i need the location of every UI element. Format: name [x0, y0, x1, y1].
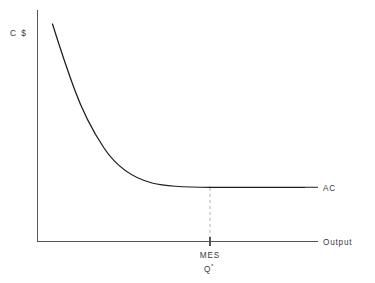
chart-figure: · · · C $ AC Output MES Q*	[0, 0, 375, 283]
y-axis-label: C $	[10, 28, 27, 38]
q-star-superscript: *	[211, 263, 214, 269]
series-label-ac: AC	[323, 184, 336, 193]
q-star-base: Q	[204, 265, 211, 274]
mes-tick-label: MES	[200, 251, 220, 260]
x-axis-label: Output	[323, 238, 352, 247]
q-star-label: Q*	[204, 263, 214, 274]
ac-curve-path	[53, 24, 211, 187]
chart-canvas: C $ AC Output MES Q*	[0, 0, 375, 283]
